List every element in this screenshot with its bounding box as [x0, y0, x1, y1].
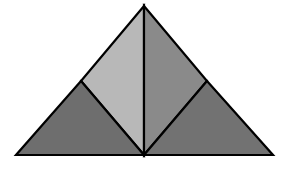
- pieces-group: [16, 6, 273, 155]
- triangle-dissection-diagram: [0, 0, 286, 172]
